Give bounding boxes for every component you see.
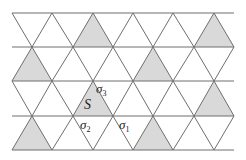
diagonal-line <box>173 47 194 81</box>
diagonal-line <box>113 81 133 116</box>
label-sigma2: σ2 <box>80 117 90 134</box>
shaded-triangle <box>73 13 113 47</box>
shaded-triangle <box>73 81 113 116</box>
diagonal-line <box>12 81 32 116</box>
diagonal-line <box>73 47 93 81</box>
label-sigma1: σ1 <box>119 117 129 134</box>
diagonal-line <box>153 13 173 47</box>
diagonal-line <box>52 47 73 81</box>
shaded-triangle <box>133 116 173 150</box>
diagonal-line <box>133 13 153 47</box>
diagonal-line <box>173 116 194 150</box>
diagonal-line <box>12 13 32 47</box>
diagonal-line <box>93 116 113 150</box>
diagonal-line <box>133 81 153 116</box>
diagonal-line <box>194 47 214 81</box>
shaded-triangle <box>194 81 234 116</box>
label-sigma3: σ3 <box>96 81 106 98</box>
diagonal-line <box>153 81 173 116</box>
diagonal-line <box>32 81 52 116</box>
diagonal-line <box>32 13 52 47</box>
diagonal-line <box>52 81 73 116</box>
diagonal-line <box>214 47 234 81</box>
shaded-triangle <box>133 47 173 81</box>
label-S: S <box>84 97 91 112</box>
diagonal-line <box>214 116 234 150</box>
diagonal-line <box>52 116 73 150</box>
diagonal-line <box>194 116 214 150</box>
shaded-triangle <box>12 116 52 150</box>
diagonal-line <box>93 47 113 81</box>
diagonal-line <box>52 13 73 47</box>
diagonal-line <box>113 47 133 81</box>
diagonal-line <box>173 81 194 116</box>
shaded-triangle <box>194 13 234 47</box>
diagonal-line <box>173 13 194 47</box>
triangular-lattice-diagram: σ3 S σ2 σ1 <box>0 0 246 160</box>
diagonal-line <box>113 13 133 47</box>
shaded-triangle <box>12 47 52 81</box>
